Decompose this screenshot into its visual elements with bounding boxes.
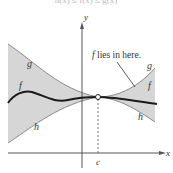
annotation-text: f lies in here. (92, 50, 141, 60)
caption: h(x) ≤ f(x) ≤ g(x) (55, 0, 117, 5)
limit-point-marker (96, 95, 101, 100)
h-right-label: h (138, 111, 143, 122)
x-axis-label: x (165, 148, 170, 158)
g-left-label: g (27, 58, 32, 69)
y-axis-arrow-icon (80, 22, 84, 29)
x-axis-arrow-icon (159, 151, 166, 155)
g-right-label: g (147, 60, 152, 71)
y-axis-label: y (83, 12, 88, 22)
annotation-pointer (117, 62, 135, 87)
annotation-body: lies in here. (95, 50, 141, 60)
squeeze-theorem-figure: h(x) ≤ f(x) ≤ g(x) y x c g f h g f h f l… (0, 0, 173, 173)
c-label: c (96, 157, 100, 167)
h-left-label: h (34, 121, 39, 132)
